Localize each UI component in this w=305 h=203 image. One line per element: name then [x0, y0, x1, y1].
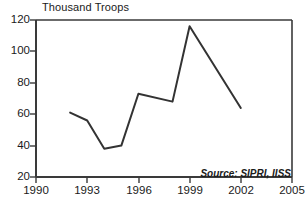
y-tick-label-100: 100	[0, 44, 30, 56]
data-series-line	[70, 26, 241, 148]
x-tick-label-1996: 1996	[117, 184, 161, 196]
source-annotation: Source: SIPRI, IISS	[200, 168, 291, 179]
x-tick-label-1999: 1999	[168, 184, 212, 196]
x-tick-label-2002: 2002	[219, 184, 263, 196]
x-tick-label-1993: 1993	[65, 184, 109, 196]
axis-lines	[36, 20, 292, 177]
x-tick-label-1990: 1990	[14, 184, 58, 196]
chart-container: Thousand Troops 120 100 80 60 40	[0, 0, 305, 203]
y-tick-label-80: 80	[0, 76, 30, 88]
y-tick-label-60: 60	[0, 107, 30, 119]
y-tick-label-40: 40	[0, 139, 30, 151]
y-tick-label-120: 120	[0, 13, 30, 25]
y-tick-label-20: 20	[0, 170, 30, 182]
x-tick-label-2005: 2005	[270, 184, 305, 196]
